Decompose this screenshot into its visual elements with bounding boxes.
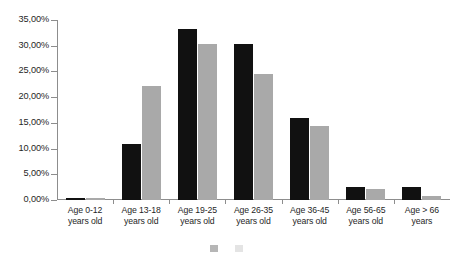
x-axis-category-label: Age 19-25years old xyxy=(169,205,225,226)
bar xyxy=(142,86,161,200)
y-axis-tick-label: 20,00% xyxy=(1,92,49,101)
bar xyxy=(234,44,253,200)
bar xyxy=(86,198,105,200)
bar xyxy=(178,29,197,200)
plot-area xyxy=(57,20,450,200)
bar xyxy=(122,144,141,200)
bar xyxy=(402,187,421,200)
y-axis-tick-label: 25,00% xyxy=(1,66,49,75)
x-axis-category-label: Age 13-18years old xyxy=(113,205,169,226)
bar xyxy=(366,189,385,200)
y-axis-tick-label: 15,00% xyxy=(1,118,49,127)
x-axis-category-label: Age > 66 years xyxy=(394,205,450,226)
chart-legend xyxy=(0,245,455,253)
legend-swatch xyxy=(210,245,218,252)
bar xyxy=(66,198,85,200)
legend-item xyxy=(210,245,221,252)
bar xyxy=(310,126,329,200)
y-axis-tick xyxy=(51,200,57,201)
bar xyxy=(422,196,441,200)
x-axis-tick xyxy=(169,200,170,204)
legend-swatch xyxy=(235,245,243,252)
x-axis-tick xyxy=(338,200,339,204)
x-axis-category-label: Age 0-12years old xyxy=(57,205,113,226)
y-axis-tick-label: 10,00% xyxy=(1,144,49,153)
bar xyxy=(198,44,217,200)
legend-item xyxy=(235,245,246,252)
x-axis-category-label: Age 26-35years old xyxy=(225,205,281,226)
x-axis-tick xyxy=(225,200,226,204)
y-axis-tick-label: 5,00% xyxy=(1,169,49,178)
x-axis-category-label: Age 56-65years old xyxy=(338,205,394,226)
bar xyxy=(346,187,365,200)
x-axis-category-label: Age 36-45years old xyxy=(282,205,338,226)
y-axis-tick-label: 0,00% xyxy=(1,195,49,204)
bar-chart: 0,00%5,00%10,00%15,00%20,00%25,00%30,00%… xyxy=(0,0,455,253)
x-axis-tick xyxy=(394,200,395,204)
bar xyxy=(290,118,309,200)
y-axis-tick-label: 35,00% xyxy=(1,15,49,24)
bar xyxy=(254,74,273,201)
x-axis-tick xyxy=(282,200,283,204)
y-axis-tick-label: 30,00% xyxy=(1,41,49,50)
x-axis-tick xyxy=(113,200,114,204)
